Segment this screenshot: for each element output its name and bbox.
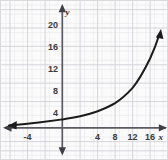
x-tick-label-16: 16: [145, 132, 155, 142]
y-tick-label-4: 4: [53, 108, 58, 118]
y-tick-label-20: 20: [48, 20, 58, 30]
graph-container: 20 16 12 8 4 -4 4 8 12 16 y x: [0, 0, 168, 160]
y-tick-label-16: 16: [48, 42, 58, 52]
y-tick-label-12: 12: [48, 64, 58, 74]
y-tick-label-8: 8: [53, 86, 58, 96]
x-tick-label-neg4: -4: [24, 132, 32, 142]
x-tick-label-4: 4: [95, 132, 100, 142]
x-axis-label: x: [158, 132, 164, 142]
coordinate-plane-graph: 20 16 12 8 4 -4 4 8 12 16 y x: [0, 0, 168, 160]
x-tick-label-8: 8: [113, 132, 118, 142]
x-tick-label-12: 12: [128, 132, 138, 142]
